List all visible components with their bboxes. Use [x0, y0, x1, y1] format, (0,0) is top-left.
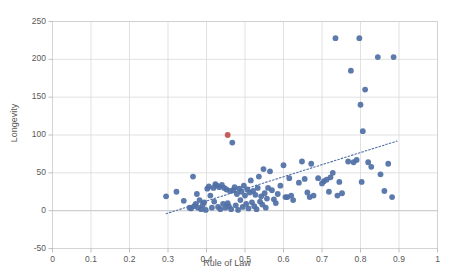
- y-tick-label: 200: [8, 53, 46, 63]
- plot-canvas: [0, 0, 454, 280]
- trendline: [166, 141, 397, 214]
- y-tick-label: 250: [8, 16, 46, 26]
- y-tick-label: -50: [8, 243, 46, 253]
- x-axis-title: Rule of Law: [0, 258, 454, 268]
- scatter-chart: -50050100150200250 00.10.20.30.40.50.60.…: [0, 0, 454, 280]
- y-tick-label: 50: [8, 167, 46, 177]
- data-points: [163, 35, 396, 213]
- y-axis-title: Longevity: [9, 88, 19, 158]
- y-tick-label: 0: [8, 205, 46, 215]
